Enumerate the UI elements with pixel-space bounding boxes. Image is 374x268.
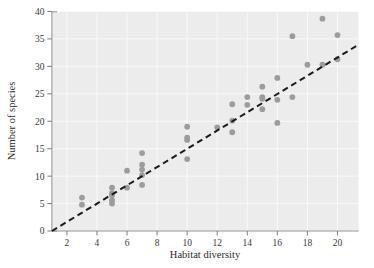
y-tick-label: 40 bbox=[35, 7, 45, 17]
y-tick-label: 0 bbox=[40, 226, 45, 236]
data-point bbox=[124, 168, 130, 174]
y-tick-label: 30 bbox=[35, 62, 45, 72]
data-point bbox=[229, 129, 235, 135]
x-tick-label: 6 bbox=[125, 238, 130, 248]
scatter-plot-figure: 2468101214161820 0510152025303540 Habita… bbox=[0, 0, 374, 268]
x-tick-label: 8 bbox=[155, 238, 160, 248]
data-point bbox=[139, 167, 145, 173]
x-tick-label: 20 bbox=[333, 238, 343, 248]
data-point bbox=[259, 96, 265, 102]
y-axis-title: Number of species bbox=[6, 82, 17, 161]
data-point bbox=[79, 202, 85, 208]
data-point bbox=[139, 162, 145, 168]
data-point bbox=[259, 84, 265, 90]
data-point bbox=[109, 201, 115, 207]
data-point bbox=[274, 97, 280, 103]
data-point bbox=[139, 150, 145, 156]
data-point bbox=[229, 101, 235, 107]
y-tick-label: 5 bbox=[40, 199, 45, 209]
data-point bbox=[79, 195, 85, 201]
plot-svg: 2468101214161820 0510152025303540 Habita… bbox=[0, 0, 374, 268]
x-tick-label: 14 bbox=[243, 238, 253, 248]
x-tick-label: 4 bbox=[95, 238, 100, 248]
data-point bbox=[109, 185, 115, 191]
data-point bbox=[289, 94, 295, 100]
data-point bbox=[320, 16, 326, 22]
data-point bbox=[274, 75, 280, 81]
data-point bbox=[274, 120, 280, 126]
data-point bbox=[244, 102, 250, 108]
data-point bbox=[289, 33, 295, 39]
y-tick-label: 25 bbox=[35, 89, 45, 99]
data-point bbox=[305, 62, 311, 68]
data-point bbox=[139, 182, 145, 188]
y-tick-label: 10 bbox=[35, 172, 45, 182]
data-point bbox=[184, 156, 190, 162]
data-point bbox=[184, 137, 190, 143]
data-point bbox=[335, 32, 341, 38]
x-tick-label: 18 bbox=[303, 238, 313, 248]
x-tick-label: 10 bbox=[182, 238, 192, 248]
y-tick-label: 15 bbox=[35, 144, 45, 154]
x-tick-label: 12 bbox=[212, 238, 222, 248]
data-point bbox=[244, 94, 250, 100]
y-tick-label: 20 bbox=[35, 117, 45, 127]
x-tick-label: 2 bbox=[65, 238, 70, 248]
x-tick-label: 16 bbox=[273, 238, 283, 248]
data-point bbox=[184, 124, 190, 130]
x-axis-title: Habitat diversity bbox=[170, 249, 241, 260]
data-point bbox=[259, 106, 265, 112]
y-tick-label: 35 bbox=[35, 34, 45, 44]
